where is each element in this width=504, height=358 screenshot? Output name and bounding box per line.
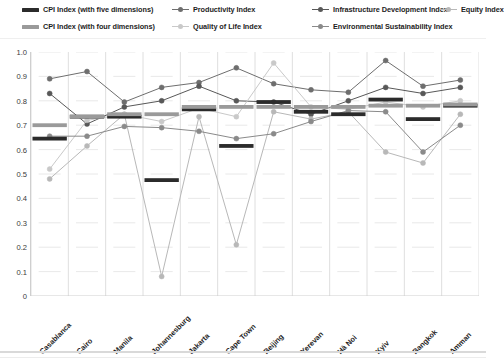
data-point[interactable]	[122, 100, 127, 105]
y-axis-tick-label: 0.1	[0, 267, 27, 276]
y-axis-tick-label: 0.5	[0, 170, 27, 179]
x-axis-tick-label: Kyiv	[373, 339, 390, 356]
cpi-bar-marker[interactable]	[331, 112, 365, 116]
data-point[interactable]	[346, 108, 351, 113]
data-point[interactable]	[159, 119, 164, 124]
data-point[interactable]	[85, 118, 90, 123]
data-point[interactable]	[234, 114, 239, 119]
data-point[interactable]	[197, 114, 202, 119]
data-point[interactable]	[159, 85, 164, 90]
data-point[interactable]	[197, 84, 202, 89]
legend-line-swatch	[312, 22, 329, 31]
footer-divider	[0, 351, 486, 353]
legend-row: CPI Index (with five dimensions)Producti…	[22, 5, 480, 22]
data-point[interactable]	[47, 91, 52, 96]
y-axis-tick-label: 1.0	[0, 48, 27, 57]
legend-label: CPI Index (with four dimensions)	[43, 22, 155, 31]
legend-environmental[interactable]: Environmental Sustainability Index	[312, 22, 453, 31]
y-axis-tick-label: 0.9	[0, 72, 27, 81]
y-axis-tick-label: 0.3	[0, 218, 27, 227]
data-point[interactable]	[122, 104, 127, 109]
legend-quality-of-life[interactable]: Quality of Life Index	[172, 22, 262, 31]
data-point[interactable]	[234, 242, 239, 247]
legend-row: CPI Index (with four dimensions)Quality …	[22, 22, 480, 39]
data-point[interactable]	[421, 91, 426, 96]
cpi-bar-marker[interactable]	[443, 103, 477, 107]
legend-line-swatch	[172, 5, 189, 14]
legend-label: Equity Index	[461, 5, 504, 14]
cpi-bar-marker[interactable]	[294, 110, 328, 114]
data-point[interactable]	[85, 69, 90, 74]
cpi-bar-marker[interactable]	[144, 178, 178, 182]
y-axis-tick-label: 0.7	[0, 121, 27, 130]
data-point[interactable]	[271, 109, 276, 114]
data-point[interactable]	[309, 119, 314, 124]
legend-label: Environmental Sustainability Index	[333, 22, 453, 31]
cpi-bar-marker[interactable]	[219, 105, 253, 109]
data-point[interactable]	[346, 98, 351, 103]
data-point[interactable]	[47, 76, 52, 81]
cpi-bar-marker[interactable]	[406, 117, 440, 121]
legend-cpi-four[interactable]: CPI Index (with four dimensions)	[22, 22, 155, 31]
legend-bar-swatch	[22, 8, 39, 12]
data-point[interactable]	[271, 60, 276, 65]
cpi-bar-marker[interactable]	[256, 105, 290, 109]
data-point[interactable]	[271, 81, 276, 86]
cpi-bar-marker[interactable]	[32, 137, 66, 141]
data-point[interactable]	[85, 143, 90, 148]
legend-label: CPI Index (with five dimensions)	[43, 5, 153, 14]
data-point[interactable]	[346, 90, 351, 95]
data-point[interactable]	[85, 134, 90, 139]
cpi-bar-marker[interactable]	[294, 105, 328, 109]
data-point[interactable]	[234, 65, 239, 70]
data-point[interactable]	[47, 167, 52, 172]
legend-line-swatch	[312, 5, 329, 14]
legend-line-swatch	[172, 22, 189, 31]
data-point[interactable]	[383, 85, 388, 90]
data-point[interactable]	[122, 124, 127, 129]
cpi-bar-marker[interactable]	[368, 98, 402, 102]
data-point[interactable]	[159, 274, 164, 279]
y-axis-tick-label: 0.6	[0, 145, 27, 154]
data-point[interactable]	[309, 87, 314, 92]
data-point[interactable]	[234, 136, 239, 141]
legend-infrastructure[interactable]: Infrastructure Development Index	[312, 5, 448, 14]
y-axis-labels: 00.10.20.30.40.50.60.70.80.91.0	[0, 40, 30, 308]
data-point[interactable]	[383, 150, 388, 155]
cpi-bar-marker[interactable]	[406, 104, 440, 108]
legend-productivity[interactable]: Productivity Index	[172, 5, 255, 14]
data-point[interactable]	[458, 123, 463, 128]
data-point[interactable]	[234, 98, 239, 103]
cpi-bar-marker[interactable]	[144, 112, 178, 116]
data-point[interactable]	[197, 129, 202, 134]
cpi-bar-marker[interactable]	[219, 144, 253, 148]
legend-label: Productivity Index	[193, 5, 255, 14]
cpi-bar-marker[interactable]	[107, 112, 141, 116]
legend-divider	[0, 38, 486, 39]
data-point[interactable]	[458, 98, 463, 103]
data-point[interactable]	[458, 112, 463, 117]
cpi-bar-marker[interactable]	[256, 100, 290, 104]
data-point[interactable]	[458, 85, 463, 90]
y-axis-tick-label: 0.2	[0, 243, 27, 252]
data-point[interactable]	[383, 58, 388, 63]
data-point[interactable]	[159, 98, 164, 103]
cpi-bar-marker[interactable]	[368, 104, 402, 108]
data-point[interactable]	[458, 78, 463, 83]
cpi-bar-marker[interactable]	[70, 115, 104, 119]
x-axis-labels: CasablancaCairoManilaJohannesburgJakarta…	[30, 298, 478, 356]
cpi-bar-marker[interactable]	[331, 105, 365, 109]
data-point[interactable]	[47, 176, 52, 181]
plot-wrapper: 00.10.20.30.40.50.60.70.80.91.0 Casablan…	[0, 40, 486, 358]
chart-legend: CPI Index (with five dimensions)Producti…	[0, 0, 486, 40]
cpi-bar-marker[interactable]	[32, 123, 66, 127]
cpi-bar-marker[interactable]	[182, 105, 216, 109]
data-point[interactable]	[421, 150, 426, 155]
data-point[interactable]	[421, 84, 426, 89]
data-point[interactable]	[159, 125, 164, 130]
legend-cpi-five[interactable]: CPI Index (with five dimensions)	[22, 5, 153, 14]
data-point[interactable]	[383, 109, 388, 114]
legend-equity[interactable]: Equity Index	[440, 5, 504, 14]
data-point[interactable]	[271, 131, 276, 136]
data-point[interactable]	[421, 161, 426, 166]
